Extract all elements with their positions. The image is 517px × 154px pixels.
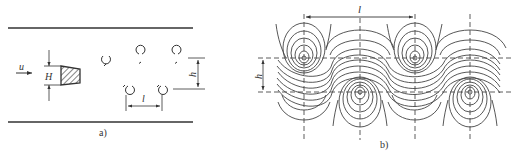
vortex-icon bbox=[172, 45, 181, 63]
panel-a-caption: a) bbox=[99, 127, 107, 139]
obstacle-height-label: H bbox=[44, 71, 53, 82]
vortex-icon bbox=[136, 45, 145, 63]
lower-vortex-row bbox=[123, 85, 168, 95]
panel-b-caption: b) bbox=[380, 139, 388, 151]
obstacle-body bbox=[61, 66, 80, 85]
panel-a: u H bbox=[8, 28, 205, 139]
panel-b: l h bbox=[253, 3, 512, 151]
wavy-streamlines bbox=[276, 24, 506, 126]
upper-vortex-row bbox=[102, 45, 181, 66]
velocity-label: u bbox=[19, 61, 24, 72]
vortex-icon bbox=[123, 85, 135, 95]
vortex-spacing-label-a: l bbox=[142, 93, 145, 104]
street-centerlines bbox=[258, 58, 512, 92]
street-width-label-a: h bbox=[187, 72, 198, 77]
street-width-label-b: h bbox=[253, 74, 264, 79]
vortex-icon bbox=[157, 85, 168, 95]
vortex-spacing-label-b: l bbox=[358, 3, 361, 15]
vortex-street-figure: u H bbox=[0, 0, 517, 154]
vortex-icon bbox=[102, 56, 111, 66]
upper-vortex-streamlines bbox=[283, 23, 436, 73]
